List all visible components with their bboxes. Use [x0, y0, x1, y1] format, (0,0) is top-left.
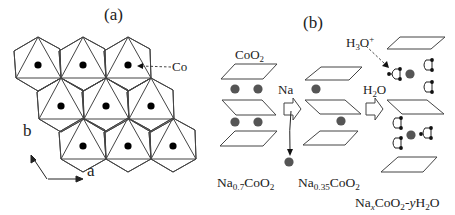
co-atom [57, 102, 64, 109]
octahedron-edge [59, 132, 61, 159]
co-label: Co [172, 60, 187, 73]
atom [429, 136, 433, 140]
octahedron-face [61, 118, 106, 159]
coo2-layer [222, 100, 276, 115]
water-molecule [423, 126, 433, 140]
h2o-o: O [377, 82, 386, 97]
water-molecule [393, 136, 403, 150]
formula-part: 0.7 [233, 182, 244, 192]
formula-part: 2 [355, 182, 360, 192]
octahedron-edge [16, 78, 38, 91]
octahedron-edge [151, 119, 174, 132]
octahedron-face [129, 78, 174, 119]
atom [399, 136, 403, 140]
atom [419, 132, 423, 136]
layer-stack-1 [220, 64, 277, 146]
octahedron-edge [106, 119, 129, 132]
na-atom [253, 117, 262, 126]
co-atom [102, 102, 109, 109]
layer-stack-2 [303, 67, 362, 145]
coo2-layer [221, 64, 277, 79]
water-molecule [393, 116, 403, 130]
octahedron-edge [39, 119, 61, 132]
axis-a-label: a [87, 162, 95, 179]
octahedron-edge [173, 159, 196, 172]
axis-b-label: b [23, 122, 32, 139]
hydration-block-arrow [366, 98, 383, 120]
atom [430, 80, 434, 84]
atom [430, 68, 434, 72]
atom [398, 77, 402, 81]
na-atom [230, 84, 239, 93]
na-atom [336, 116, 345, 125]
octahedron-edge [37, 92, 39, 119]
atom [399, 146, 403, 150]
na-atoms-stack-1 [230, 84, 262, 126]
co-atom [79, 142, 86, 149]
coo2-layer [220, 131, 277, 146]
na-atoms-stack-2 [311, 84, 345, 125]
layer-stack-3 [381, 37, 445, 172]
formula-part: H [415, 195, 425, 210]
na-atom [230, 117, 239, 126]
na-atom [406, 130, 415, 139]
coo2-lattice [14, 37, 196, 172]
octahedron-edge [61, 119, 84, 132]
compound-label-na07: Na0.7CoO2 [217, 176, 274, 190]
formula-part: CoO [244, 175, 270, 190]
compound-label-hydrated: NaxCoO2-yH2O [355, 196, 440, 210]
atom [429, 126, 433, 130]
block-arrow [284, 98, 301, 120]
h3o-charge: + [369, 34, 374, 44]
octahedron-edge [128, 159, 151, 172]
formula-part: 2 [270, 182, 275, 192]
octahedron-face [39, 78, 84, 119]
coo2-layer [387, 37, 445, 49]
curved-arrow [290, 111, 291, 151]
octahedron-edge [106, 159, 128, 172]
na-atom [284, 157, 293, 166]
formula-part: CoO [330, 175, 356, 190]
hydronium-pointer-arrow [366, 46, 389, 68]
octahedron-face [106, 118, 151, 159]
atom [387, 72, 391, 76]
axis-a-arrowhead [76, 176, 83, 182]
octahedron-face [151, 118, 196, 159]
octahedron-face [16, 37, 61, 78]
na-deintercalation-arrow [284, 98, 301, 167]
na-atom [253, 84, 262, 93]
coo2-layer [303, 131, 358, 145]
octahedron-edge [150, 49, 151, 78]
atom [399, 126, 403, 130]
co-pointer-arrow [137, 63, 171, 69]
panel-a-label: (a) [104, 6, 123, 23]
na-atom [311, 84, 320, 93]
octahedron-edge [61, 159, 83, 172]
coo2-layer [387, 100, 444, 114]
co-atom [124, 61, 131, 68]
na-arrow-label: Na [278, 83, 293, 96]
atom [398, 67, 402, 71]
h3o-o: O [360, 35, 369, 50]
formula-part: O [430, 195, 440, 210]
formula-part: CoO [375, 195, 401, 210]
coo2-sub: 2 [260, 54, 264, 64]
formula-part: 0.35 [314, 182, 330, 192]
h3o-h: H [346, 35, 355, 50]
coo2-layer-label: CoO2 [235, 48, 264, 61]
formula-part: Na [298, 175, 314, 190]
co-atom [34, 61, 41, 68]
water-molecule [424, 80, 434, 94]
compound-label-na035: Na0.35CoO2 [298, 176, 360, 190]
water-molecule [424, 58, 434, 72]
co-atom [147, 102, 154, 109]
co-atom [79, 61, 86, 68]
hydronium-ion [387, 67, 402, 81]
octahedron-edge [195, 130, 196, 159]
octahedron-face [106, 37, 151, 78]
octahedron-edge [173, 90, 174, 119]
octahedron-face [84, 78, 129, 119]
atom [430, 58, 434, 62]
formula-part: Na [217, 175, 233, 190]
h2o-h: H [363, 82, 372, 97]
